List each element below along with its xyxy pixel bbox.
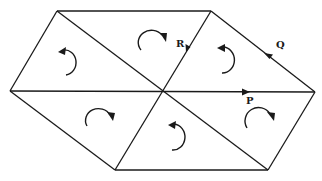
counterclockwise-arrow-icon <box>217 44 234 73</box>
clockwise-arrow-icon <box>138 30 167 50</box>
vector-r-label: R <box>176 39 184 49</box>
clockwise-arrow-icon <box>86 109 115 126</box>
counterclockwise-arrow-icon <box>168 121 185 150</box>
vector-p-label: P <box>246 96 254 106</box>
vector-q-label: Q <box>276 40 285 50</box>
triangle-tiling-diagram <box>0 0 322 181</box>
counterclockwise-arrow-icon <box>58 47 76 75</box>
clockwise-arrow-icon <box>245 108 275 128</box>
